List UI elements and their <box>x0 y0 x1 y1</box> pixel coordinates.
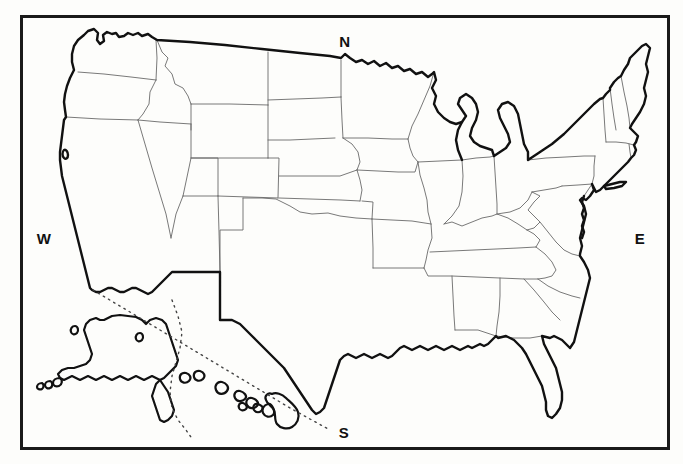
map-frame-border <box>20 15 670 450</box>
compass-label-east: E <box>635 231 646 246</box>
compass-label-west: W <box>37 231 52 246</box>
compass-label-south: S <box>339 425 350 440</box>
compass-label-north: N <box>339 34 350 49</box>
map-page: N S W E <box>0 0 683 464</box>
